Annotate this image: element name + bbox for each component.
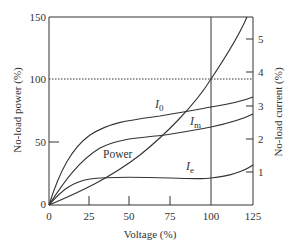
right-tick-labels: 1 2 3 4 5 <box>258 33 264 178</box>
svg-text:75: 75 <box>165 210 177 222</box>
svg-text:25: 25 <box>84 210 96 222</box>
svg-text:100: 100 <box>30 73 47 85</box>
svg-text:4: 4 <box>258 66 264 78</box>
svg-text:150: 150 <box>30 11 47 23</box>
label-im: Im <box>189 114 201 130</box>
no-load-characteristics-chart: I0 Im Power Ie 150 100 50 0 0 25 50 75 1… <box>0 0 292 248</box>
bottom-axis-ticks <box>89 196 170 205</box>
curve-ie <box>49 165 253 205</box>
svg-text:5: 5 <box>258 33 264 45</box>
label-ie: Ie <box>185 159 194 175</box>
svg-text:3: 3 <box>258 100 264 112</box>
svg-text:125: 125 <box>245 210 262 222</box>
svg-text:1: 1 <box>258 166 264 178</box>
x-axis-title: Voltage (%) <box>124 228 177 241</box>
curve-i0 <box>49 97 253 205</box>
right-axis-ticks <box>246 39 253 172</box>
left-tick-labels: 150 100 50 0 <box>30 11 47 210</box>
svg-text:0: 0 <box>46 210 52 222</box>
svg-text:0: 0 <box>41 198 47 210</box>
label-power: Power <box>103 148 133 160</box>
svg-text:50: 50 <box>124 210 136 222</box>
y-left-axis-title: No-load power (%) <box>11 67 24 153</box>
label-i0: I0 <box>154 97 164 113</box>
bottom-tick-labels: 0 25 50 75 100 125 <box>46 210 262 222</box>
svg-text:50: 50 <box>35 136 47 148</box>
svg-text:100: 100 <box>203 210 220 222</box>
y-right-axis-title: No-load current (%) <box>272 67 285 157</box>
svg-text:2: 2 <box>258 133 264 145</box>
